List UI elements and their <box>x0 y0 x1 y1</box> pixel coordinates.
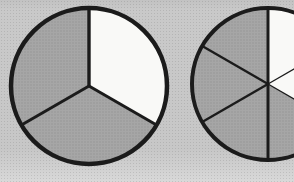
pie-charts-group <box>11 8 294 164</box>
pie-sixths <box>192 8 294 160</box>
fraction-pies-svg <box>0 0 294 182</box>
scanned-fraction-figure <box>0 0 294 182</box>
pie-thirds <box>11 8 167 164</box>
